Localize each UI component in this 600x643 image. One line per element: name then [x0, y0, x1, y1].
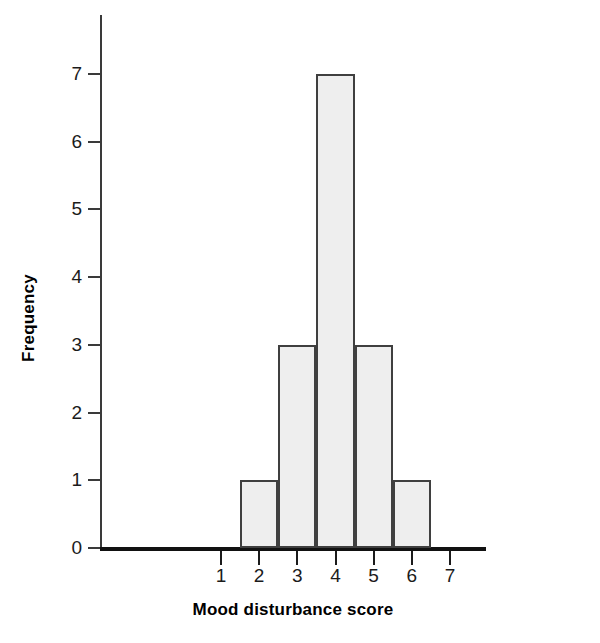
- y-tick-mark: [88, 208, 100, 210]
- y-tick-label: 0: [22, 538, 82, 557]
- x-tick-label: 2: [239, 566, 279, 587]
- x-tick-label: 6: [392, 566, 432, 587]
- histogram-bar: [240, 480, 278, 548]
- y-axis-line: [100, 15, 102, 549]
- x-tick-mark: [373, 551, 375, 565]
- x-tick-label: 1: [201, 566, 241, 587]
- y-tick-mark: [88, 412, 100, 414]
- x-tick-label: 7: [430, 566, 470, 587]
- histogram-bar: [316, 74, 354, 548]
- y-tick-mark: [88, 547, 100, 549]
- x-tick-mark: [258, 551, 260, 565]
- x-tick-label: 5: [354, 566, 394, 587]
- y-tick-label: 2: [22, 403, 82, 422]
- y-tick-label: 1: [22, 470, 82, 489]
- x-tick-mark: [449, 551, 451, 565]
- y-axis-title-text: Frequency: [19, 243, 39, 393]
- y-axis-title: Frequency: [19, 93, 39, 243]
- x-tick-mark: [220, 551, 222, 565]
- x-tick-label: 3: [277, 566, 317, 587]
- y-tick-mark: [88, 141, 100, 143]
- y-tick-mark: [88, 479, 100, 481]
- histogram-figure: 01234567 1234567 Frequency Mood disturba…: [0, 0, 600, 643]
- x-tick-mark: [335, 551, 337, 565]
- histogram-bar: [278, 345, 316, 548]
- histogram-bar: [393, 480, 431, 548]
- x-tick-mark: [411, 551, 413, 565]
- y-tick-mark: [88, 73, 100, 75]
- histogram-bar: [355, 345, 393, 548]
- x-tick-mark: [296, 551, 298, 565]
- y-tick-label: 7: [22, 64, 82, 83]
- x-axis-title: Mood disturbance score: [100, 600, 486, 620]
- plot-area: 01234567 1234567 Frequency Mood disturba…: [0, 0, 600, 643]
- x-tick-label: 4: [316, 566, 356, 587]
- y-tick-mark: [88, 276, 100, 278]
- y-tick-mark: [88, 344, 100, 346]
